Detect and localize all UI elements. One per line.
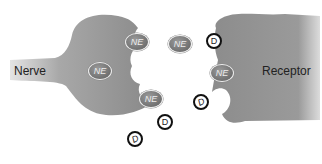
d-molecule: D xyxy=(193,94,209,110)
d-molecule: D xyxy=(157,114,173,130)
ne-molecule: NE xyxy=(125,33,149,51)
receptor-label: Receptor xyxy=(262,64,311,78)
d-molecule: D xyxy=(206,33,222,49)
ne-molecule: NE xyxy=(88,62,112,80)
d-molecule-label: D xyxy=(130,133,140,145)
d-molecule-label: D xyxy=(196,96,206,108)
nerve-label: Nerve xyxy=(14,64,46,78)
d-molecule-label: D xyxy=(162,117,169,127)
ne-molecule: NE xyxy=(210,64,234,82)
synapse-diagram: Nerve Receptor NE NE NE NE NE D D D D xyxy=(0,0,322,164)
ne-molecule: NE xyxy=(139,90,163,108)
ne-molecule: NE xyxy=(168,35,192,53)
d-molecule: D xyxy=(127,131,143,147)
cell-shapes xyxy=(0,0,322,164)
d-molecule-label: D xyxy=(211,36,218,46)
